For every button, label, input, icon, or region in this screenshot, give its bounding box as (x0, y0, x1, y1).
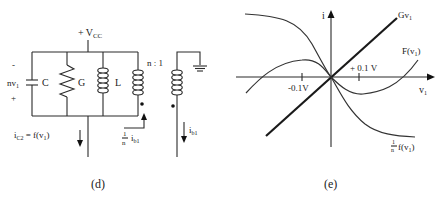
vcc-label: +VCC (78, 27, 103, 40)
circuit-diagram: +VCC C - nv1 + G L (7, 27, 207, 191)
resistor-symbol (60, 52, 74, 116)
transformer-primary (133, 52, 144, 116)
curve-f (245, 14, 415, 137)
reflected-current-label: ib1 (131, 133, 140, 144)
tick-pos-label: + 0.1 V (350, 63, 378, 73)
x-axis-label: v1 (419, 84, 427, 96)
capacitor-symbol (26, 52, 38, 116)
curve-f-label: f(v1) (398, 142, 415, 153)
capacitor-label: C (42, 77, 49, 88)
reflected-current-den: n (122, 139, 126, 147)
curve-f-num: 1 (392, 139, 395, 145)
collector-current-label: iC2 = f(v1) (14, 130, 50, 141)
ground-icon (193, 66, 207, 71)
polarity-minus: - (12, 60, 15, 70)
base-current-arrow (181, 122, 187, 143)
curve-F-label: F(v1) (402, 46, 421, 57)
turns-ratio-label: n : 1 (147, 58, 163, 68)
tick-neg-label: -0.1V (288, 83, 309, 93)
x-axis-arrow (427, 74, 435, 81)
characteristic-graph: -0.1V + 0.1 V i v1 Gv1 F(v1) 1 n f(v1) (… (236, 10, 435, 191)
figure-canvas: +VCC C - nv1 + G L (0, 0, 443, 200)
polarity-plus: + (11, 93, 16, 103)
inductor-label: L (115, 77, 121, 88)
inductor-l-symbol (98, 52, 109, 116)
dot-marker-secondary (171, 104, 175, 108)
collector-current-arrow (77, 130, 83, 147)
reflected-current-arrow (124, 113, 147, 128)
dot-marker-primary (140, 102, 144, 106)
caption-e: (e) (324, 177, 337, 191)
y-axis-label: i (322, 10, 325, 21)
base-current-label: ib1 (189, 125, 198, 136)
curve-f-den: n (391, 147, 394, 153)
caption-d: (d) (91, 177, 105, 191)
y-axis-arrow (328, 10, 335, 18)
reflected-current-num: 1 (123, 130, 127, 138)
voltage-label: nv1 (7, 78, 19, 89)
transformer-secondary (171, 52, 200, 157)
resistor-label: G (78, 77, 85, 88)
curve-gv1-label: Gv1 (398, 10, 412, 21)
